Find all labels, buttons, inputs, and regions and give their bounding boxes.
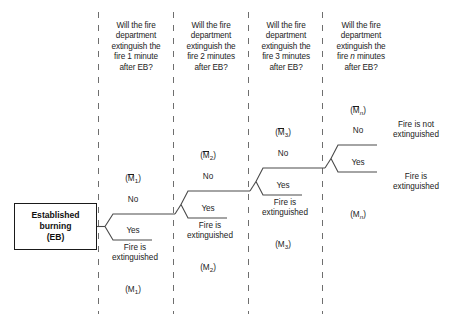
stage-3-success-event-sub: 3 [285, 243, 288, 250]
stage-n-yes-label: Yes [335, 158, 381, 168]
stage-3-fail-event-base: M [278, 128, 285, 137]
stage-3-success-event-label: (M3) [258, 240, 308, 250]
branch-1-no [105, 214, 175, 227]
event-tree-diagram: Established burning (EB) Will the fire d… [0, 0, 453, 322]
branch-n-no-terminal [331, 145, 377, 159]
stage-3-fail-event-sub: 3 [285, 131, 288, 138]
established-burning-label: Established burning (EB) [31, 210, 79, 243]
stage-1-success-event-label: (M1) [108, 285, 158, 295]
stage-1-success-event-base: M [128, 285, 135, 294]
established-burning-box: Established burning (EB) [14, 203, 97, 250]
stage-header-3: Will the fire department extinguish the … [249, 21, 323, 73]
stage-2-fail-event-label: (M2) [183, 151, 233, 161]
stage-1-fail-event-sub: 1 [135, 177, 138, 184]
stage-3-yes-label: Yes [260, 181, 306, 191]
stage-2-fail-event-sub: 2 [210, 154, 213, 161]
stage-2-no-label: No [185, 172, 231, 182]
stage-n-success-event-base: M [353, 210, 360, 219]
branch-n-stem [325, 159, 331, 169]
stage-1-fail-event-label: (M1) [108, 174, 158, 184]
branch-2-stem [175, 205, 181, 215]
stage-2-success-event-label: (M2) [183, 263, 233, 273]
stage-2-outcome-text: Fire is extinguished [179, 221, 241, 242]
terminal-outcome-extinguished: Fire is extinguished [381, 172, 451, 193]
stage-n-success-event-label: (Mn) [333, 210, 383, 220]
stage-2-fail-event-base: M [203, 151, 210, 160]
stage-1-success-event-sub: 1 [135, 288, 138, 295]
stage-3-success-event-base: M [278, 240, 285, 249]
stage-1-fail-event-base: M [128, 174, 135, 183]
branch-3-no [256, 168, 325, 182]
stage-2-yes-label: Yes [185, 204, 231, 214]
stage-n-success-event-sub: n [360, 213, 363, 220]
stage-1-yes-label: Yes [110, 226, 156, 236]
stage-3-outcome-text: Fire is extinguished [254, 198, 316, 219]
stage-n-no-label: No [335, 126, 381, 136]
stage-header-n: Will the fire department extinguish the … [324, 21, 398, 73]
branch-3-stem [250, 182, 256, 192]
stage-n-fail-event-base: M [353, 106, 360, 115]
stage-n-fail-event-sub: n [360, 109, 363, 116]
stage-header-1: Will the fire department extinguish the … [99, 21, 173, 73]
stage-1-outcome-text: Fire is extinguished [104, 243, 166, 264]
stage-3-no-label: No [260, 149, 306, 159]
stage-1-no-label: No [110, 195, 156, 205]
terminal-outcome-not-extinguished: Fire is not extinguished [381, 120, 451, 141]
stage-3-fail-event-label: (M3) [258, 128, 308, 138]
stage-2-success-event-sub: 2 [210, 266, 213, 273]
branch-2-no [181, 191, 250, 205]
stage-header-2: Will the fire department extinguish the … [174, 21, 248, 73]
stage-2-success-event-base: M [203, 263, 210, 272]
stage-n-fail-event-label: (Mn) [333, 106, 383, 116]
